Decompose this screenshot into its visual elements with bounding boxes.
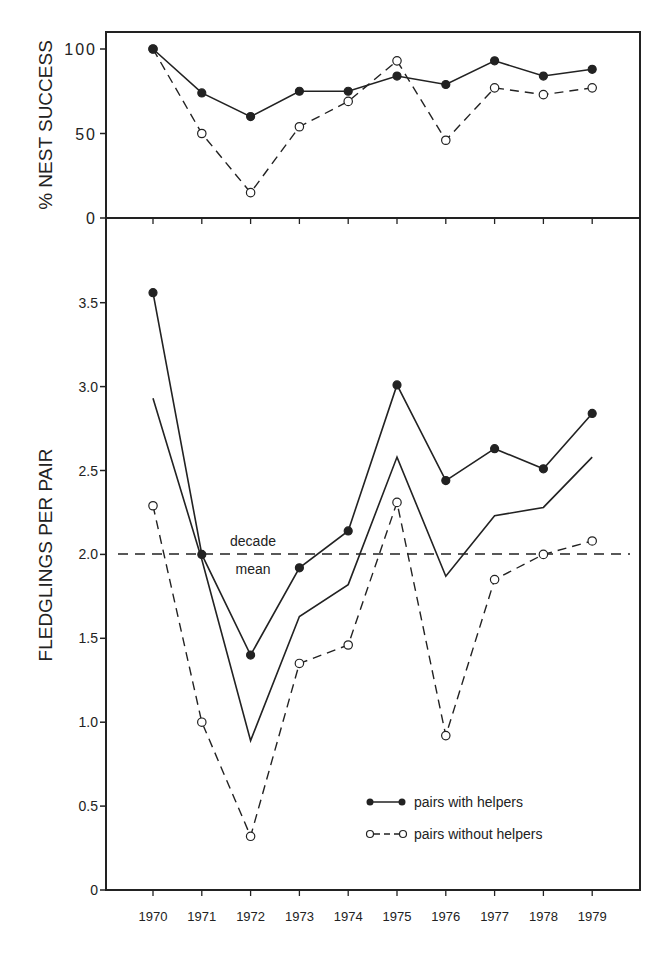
bottom-series-with-helpers <box>149 289 596 659</box>
svg-text:1.0: 1.0 <box>79 714 99 730</box>
open-marker-icon <box>442 136 450 144</box>
svg-text:1970: 1970 <box>139 909 168 924</box>
filled-marker-icon <box>198 89 206 97</box>
svg-text:100: 100 <box>64 41 97 58</box>
open-marker-icon <box>588 537 596 545</box>
open-marker-icon <box>539 550 547 558</box>
filled-marker-icon <box>491 445 499 453</box>
top-y-axis-ticks: 050100 <box>64 41 106 227</box>
bottom-series-without-helpers <box>149 498 597 840</box>
open-marker-icon <box>442 731 450 739</box>
open-marker-icon <box>393 498 401 506</box>
filled-marker-icon <box>442 80 450 88</box>
filled-marker-icon <box>149 45 157 53</box>
filled-marker-icon <box>295 87 303 95</box>
svg-text:1979: 1979 <box>578 909 607 924</box>
filled-marker-icon <box>539 72 547 80</box>
svg-text:0: 0 <box>86 210 97 227</box>
legend-open-marker-icon <box>400 831 407 838</box>
filled-marker-icon <box>539 465 547 473</box>
bottom-y-axis-label: FLEDGLINGS PER PAIR <box>35 449 56 662</box>
svg-text:1972: 1972 <box>236 909 265 924</box>
filled-marker-icon <box>344 87 352 95</box>
legend: pairs with helpers pairs without helpers <box>367 794 543 842</box>
svg-text:2.5: 2.5 <box>79 463 99 479</box>
top-panel-frame <box>106 32 640 218</box>
open-marker-icon <box>539 90 547 98</box>
decade-label: decade <box>230 533 276 549</box>
open-marker-icon <box>344 97 352 105</box>
legend-filled-marker-icon <box>399 799 406 806</box>
top-series-with-helpers <box>149 45 596 121</box>
svg-text:1977: 1977 <box>480 909 509 924</box>
svg-text:0: 0 <box>90 882 98 898</box>
bottom-y-axis-ticks: 00.51.01.52.02.53.03.5 <box>79 295 106 898</box>
svg-text:1976: 1976 <box>431 909 460 924</box>
open-marker-icon <box>198 718 206 726</box>
open-marker-icon <box>198 129 206 137</box>
svg-text:2.0: 2.0 <box>79 546 99 562</box>
filled-marker-icon <box>198 550 206 558</box>
filled-marker-icon <box>247 113 255 121</box>
open-marker-icon <box>393 57 401 65</box>
svg-text:1974: 1974 <box>334 909 363 924</box>
open-marker-icon <box>344 641 352 649</box>
svg-text:1975: 1975 <box>383 909 412 924</box>
open-marker-icon <box>490 84 498 92</box>
top-series-without-helpers <box>149 45 597 197</box>
chart-figure: 050100 00.51.01.52.02.53.03.5 1970197119… <box>0 0 665 955</box>
bottom-series-all-pairs <box>153 398 592 740</box>
open-marker-icon <box>295 659 303 667</box>
open-marker-icon <box>149 502 157 510</box>
legend-helpers-label: pairs with helpers <box>414 794 523 810</box>
svg-text:3.5: 3.5 <box>79 295 99 311</box>
filled-marker-icon <box>491 57 499 65</box>
filled-marker-icon <box>588 409 596 417</box>
svg-text:1973: 1973 <box>285 909 314 924</box>
legend-filled-marker-icon <box>367 799 374 806</box>
svg-text:1978: 1978 <box>529 909 558 924</box>
svg-text:3.0: 3.0 <box>79 379 99 395</box>
legend-without-label: pairs without helpers <box>414 826 542 842</box>
svg-text:1.5: 1.5 <box>79 630 99 646</box>
svg-text:1971: 1971 <box>187 909 216 924</box>
mean-label: mean <box>235 561 270 577</box>
series-layer <box>149 45 597 841</box>
top-y-axis-label: % NEST SUCCESS <box>35 40 56 210</box>
filled-marker-icon <box>247 651 255 659</box>
filled-marker-icon <box>344 527 352 535</box>
open-marker-icon <box>246 188 254 196</box>
filled-marker-icon <box>149 289 157 297</box>
open-marker-icon <box>295 123 303 131</box>
open-marker-icon <box>490 575 498 583</box>
bottom-x-axis-ticks: 1970197119721973197419751976197719781979 <box>139 890 607 924</box>
filled-marker-icon <box>295 564 303 572</box>
legend-open-marker-icon <box>367 831 374 838</box>
filled-marker-icon <box>393 381 401 389</box>
open-marker-icon <box>246 832 254 840</box>
filled-marker-icon <box>442 477 450 485</box>
svg-text:0.5: 0.5 <box>79 798 99 814</box>
svg-text:50: 50 <box>75 126 97 143</box>
filled-marker-icon <box>393 72 401 80</box>
open-marker-icon <box>588 84 596 92</box>
filled-marker-icon <box>588 65 596 73</box>
